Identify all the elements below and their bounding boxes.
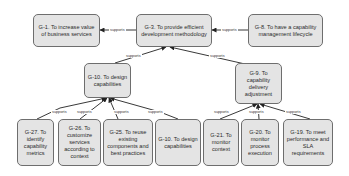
node-label: G-26. To customize services according to… [61, 125, 98, 160]
node-label: G-8. To have a capability management lif… [251, 24, 320, 38]
goal-node-g27[interactable]: G-27. To identify capability metrics [17, 119, 54, 166]
edge-label: supports [213, 110, 230, 114]
edge-label: supports [209, 54, 226, 58]
edge-label: supports [113, 110, 130, 114]
goal-node-g21[interactable]: G-21. To monitor context [203, 119, 239, 166]
goal-node-g25[interactable]: G-25. To reuse existing components and b… [103, 119, 153, 166]
edge-g10b-g10 [110, 98, 178, 119]
goal-node-g8[interactable]: G-8. To have a capability management lif… [248, 14, 323, 47]
edge-label: supports [285, 110, 302, 114]
goal-node-g1[interactable]: G-1. To increase value of business servi… [33, 14, 100, 47]
edge-g27-g10 [37, 98, 106, 119]
node-label: G-10. To design capabilities [87, 74, 128, 88]
node-label: G-19. To meet performance and SLA requir… [286, 129, 330, 157]
goal-node-g19[interactable]: G-19. To meet performance and SLA requir… [283, 119, 333, 166]
goal-node-g3[interactable]: G-3. To provide efficient development me… [136, 14, 212, 47]
node-label: G-21. To monitor context [206, 132, 236, 153]
goal-node-g26[interactable]: G-26. To customize services according to… [58, 119, 101, 166]
goal-node-g20[interactable]: G-20. To monitor process execution [241, 119, 279, 166]
goal-node-g10-leaf[interactable]: G-10. To design capabilities [155, 119, 201, 166]
edge-label: supports [125, 54, 142, 58]
goal-node-g9[interactable]: G-9. To capability delivery adjustment [235, 63, 282, 104]
edge-label: supports [221, 28, 238, 32]
node-label: G-3. To provide efficient development me… [139, 24, 209, 38]
edge-label: supports [51, 110, 68, 114]
node-label: G-27. To identify capability metrics [20, 129, 51, 157]
goal-diagram: supports supports supports supports supp… [0, 0, 349, 176]
node-label: G-20. To monitor process execution [244, 129, 276, 157]
node-label: G-25. To reuse existing components and b… [106, 129, 150, 157]
edge-label: supports [147, 110, 164, 114]
edge-label: supports [109, 28, 126, 32]
edge-g9-g3 [170, 47, 245, 64]
edge-label: supports [76, 110, 93, 114]
node-label: G-9. To capability delivery adjustment [238, 70, 279, 98]
goal-node-g10[interactable]: G-10. To design capabilities [84, 63, 131, 98]
edge-g25-g10 [109, 98, 118, 119]
node-label: G-10. To design capabilities [158, 136, 198, 150]
edge-label: supports [248, 110, 265, 114]
node-label: G-1. To increase value of business servi… [36, 24, 97, 38]
